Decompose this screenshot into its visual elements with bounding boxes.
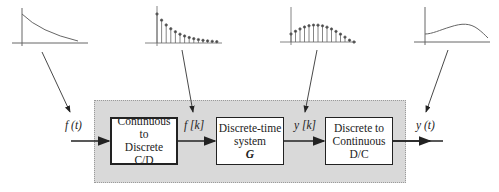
block-cd-line-2: Discrete bbox=[125, 141, 163, 154]
plot-f-t bbox=[12, 8, 88, 46]
block-cd-line-1: Continuous to bbox=[112, 115, 176, 141]
block-g-line-2: system bbox=[234, 135, 266, 148]
block-cd-line-3: C/D bbox=[134, 154, 153, 167]
block-g-symbol: G bbox=[246, 148, 254, 161]
block-discrete-to-continuous: Discrete to Continuous D/C bbox=[325, 117, 393, 165]
block-g-line-1: Discrete-time bbox=[219, 122, 282, 135]
block-dc-line-1: Discrete to bbox=[334, 122, 384, 135]
signal-label-y-t: y (t) bbox=[416, 119, 435, 131]
block-dc-line-3: D/C bbox=[349, 148, 368, 161]
signal-label-y-k: y [k] bbox=[294, 119, 316, 131]
block-dc-line-2: Continuous bbox=[332, 135, 385, 148]
plot-y-t bbox=[414, 7, 490, 45]
plot-f-k bbox=[145, 6, 222, 46]
signal-label-f-t: f (t) bbox=[65, 119, 82, 131]
block-discrete-time-system: Discrete-time system G bbox=[216, 117, 284, 165]
block-continuous-to-discrete: Continuous to Discrete C/D bbox=[110, 117, 178, 165]
signal-label-f-k: f [k] bbox=[184, 119, 204, 131]
plot-y-k bbox=[280, 7, 356, 45]
